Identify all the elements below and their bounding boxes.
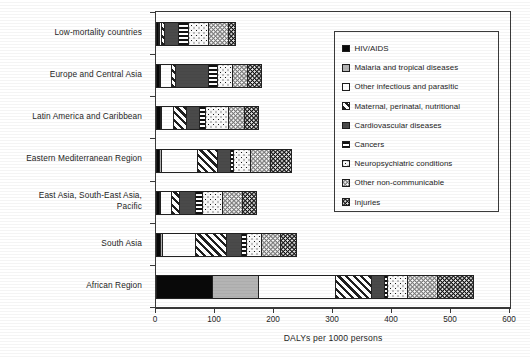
bar-segment <box>208 65 217 87</box>
bar-segment <box>387 276 406 298</box>
bar-segment <box>244 107 258 129</box>
chart-legend: HIV/AIDSMalaria and tropical diseasesOth… <box>334 31 499 212</box>
bar-segment <box>175 65 207 87</box>
bar-segment <box>280 234 295 256</box>
legend-label: Other non-communicable <box>355 178 445 187</box>
x-tick-label: 600 <box>502 315 516 324</box>
legend-label: Injuries <box>355 198 381 207</box>
bar-segment <box>226 234 241 256</box>
x-tick <box>273 308 274 313</box>
legend-item: Cancers <box>342 135 492 154</box>
legend-swatch-icon <box>342 102 350 110</box>
y-tick <box>150 265 155 266</box>
bar-segment <box>197 150 217 172</box>
legend-label: Neuropsychiatric conditions <box>355 159 453 168</box>
stacked-bar <box>156 22 236 46</box>
x-tick <box>214 308 215 313</box>
x-axis-title: DALYs per 1000 persons <box>155 333 511 343</box>
bar-segment <box>195 192 203 214</box>
bar-segment <box>246 234 261 256</box>
x-tick-label: 0 <box>153 315 158 324</box>
legend-swatch-icon <box>342 83 350 91</box>
stacked-bar <box>156 106 259 130</box>
stacked-bar <box>156 275 474 299</box>
y-tick <box>150 223 155 224</box>
bar-segment <box>217 150 230 172</box>
legend-swatch-icon <box>342 160 350 168</box>
bar-segment <box>217 65 233 87</box>
x-tick <box>509 308 510 313</box>
bar-segment <box>222 192 241 214</box>
bar-segment <box>205 107 228 129</box>
dalys-stacked-bar-chart: Low-mortality countriesEurope and Centra… <box>0 0 530 357</box>
legend-label: Cancers <box>355 140 385 149</box>
y-axis-label: Europe and Central Asia <box>0 69 142 80</box>
bar-segment <box>171 192 179 214</box>
x-tick-label: 200 <box>266 315 280 324</box>
bar-segment <box>371 276 384 298</box>
legend-swatch-icon <box>342 122 350 130</box>
bar-segment <box>335 276 372 298</box>
y-axis-label: Low-mortality countries <box>0 27 142 38</box>
bar-segment <box>270 150 291 172</box>
x-tick <box>450 308 451 313</box>
legend-item: Other infectious and parasitic <box>342 77 492 96</box>
legend-swatch-icon <box>342 45 350 53</box>
y-axis-label: Eastern Mediterranean Region <box>0 153 142 164</box>
y-axis-label: East Asia, South-East Asia,Pacific <box>0 190 142 211</box>
y-axis-label: African Region <box>0 280 142 291</box>
legend-label: Malaria and tropical diseases <box>355 63 459 72</box>
x-tick-label: 400 <box>384 315 398 324</box>
legend-item: Malaria and tropical diseases <box>342 58 492 77</box>
bar-segment <box>437 276 472 298</box>
legend-label: Cardiovascular diseases <box>355 121 442 130</box>
bar-segment <box>188 23 209 45</box>
legend-item: HIV/AIDS <box>342 39 492 58</box>
bar-segment <box>228 23 236 45</box>
bar-segment <box>212 276 258 298</box>
bar-segment <box>232 65 247 87</box>
legend-label: Maternal, perinatal, nutritional <box>355 102 461 111</box>
stacked-bar <box>156 233 297 257</box>
y-axis-label: South Asia <box>0 238 142 249</box>
bar-segment <box>258 276 335 298</box>
y-tick <box>150 12 155 13</box>
bar-segment <box>160 192 171 214</box>
legend-item: Injuries <box>342 193 492 212</box>
x-tick <box>155 308 156 313</box>
bar-segment <box>202 192 222 214</box>
bar-segment <box>208 23 227 45</box>
x-tick-label: 500 <box>443 315 457 324</box>
legend-item: Maternal, perinatal, nutritional <box>342 97 492 116</box>
legend-label: HIV/AIDS <box>355 44 389 53</box>
bar-segment <box>233 150 250 172</box>
x-axis-line <box>155 308 511 309</box>
bar-segment <box>173 107 186 129</box>
legend-item: Other non-communicable <box>342 173 492 192</box>
bar-segment <box>242 192 256 214</box>
bar-segment <box>161 107 173 129</box>
bar-segment <box>186 107 200 129</box>
y-tick <box>150 307 155 308</box>
bar-segment <box>195 234 226 256</box>
bar-segment <box>179 192 195 214</box>
legend-label: Other infectious and parasitic <box>355 82 459 91</box>
bar-segment <box>228 107 245 129</box>
x-tick <box>332 308 333 313</box>
bar-segment <box>407 276 438 298</box>
stacked-bar <box>156 149 292 173</box>
bar-segment <box>164 23 178 45</box>
y-axis-label: Latin America and Caribbean <box>0 111 142 122</box>
y-axis-category-labels: Low-mortality countriesEurope and Centra… <box>0 11 150 308</box>
x-tick-label: 300 <box>325 315 339 324</box>
bar-segment <box>178 23 188 45</box>
x-tick-label: 100 <box>207 315 221 324</box>
legend-swatch-icon <box>342 179 350 187</box>
legend-item: Cardiovascular diseases <box>342 116 492 135</box>
bar-segment <box>161 150 196 172</box>
legend-swatch-icon <box>342 198 350 206</box>
bar-segment <box>250 150 271 172</box>
bar-segment <box>162 234 194 256</box>
bar-segment <box>261 234 280 256</box>
legend-swatch-icon <box>342 64 350 72</box>
